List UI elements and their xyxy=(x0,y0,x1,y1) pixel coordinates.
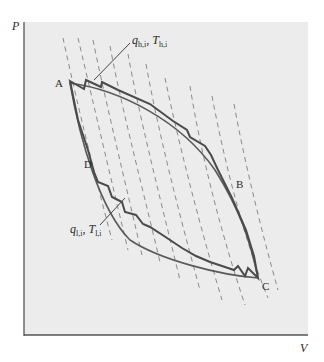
point-label-d: D xyxy=(84,158,92,170)
x-axis-label: V xyxy=(300,341,309,355)
point-label-c: C xyxy=(262,280,269,292)
pv-diagram: P V A B C D qh,i, Th,i ql,i, Tl,i xyxy=(0,0,324,362)
point-label-a: A xyxy=(55,77,63,89)
point-label-b: B xyxy=(236,178,243,190)
y-axis-label: P xyxy=(11,19,20,33)
